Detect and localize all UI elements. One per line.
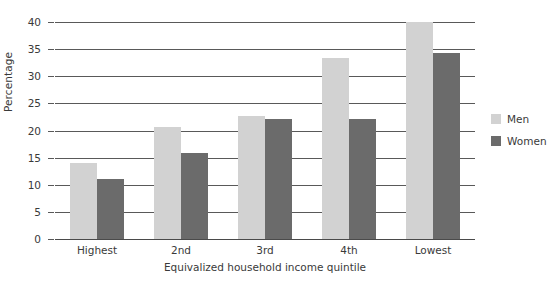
y-axis-title: Percentage bbox=[2, 22, 18, 112]
y-axis-tick bbox=[48, 212, 54, 213]
bar-men-highest bbox=[70, 163, 97, 239]
legend-item-men: Men bbox=[491, 110, 551, 128]
y-axis-tick-label: 15 bbox=[28, 152, 41, 164]
bar-men-2nd bbox=[154, 127, 181, 239]
y-axis-tick-label: 0 bbox=[34, 233, 41, 245]
y-axis-tick-label: 40 bbox=[28, 16, 41, 28]
x-axis-line bbox=[55, 239, 475, 240]
plot-area: 0510152025303540 bbox=[55, 22, 475, 239]
legend-item-women: Women bbox=[491, 132, 551, 150]
bar-group bbox=[322, 22, 376, 239]
y-axis-tick bbox=[48, 185, 54, 186]
bar-women-2nd bbox=[181, 153, 208, 239]
y-axis-tick bbox=[48, 131, 54, 132]
legend-swatch-icon bbox=[491, 136, 501, 146]
y-axis-tick bbox=[48, 22, 54, 23]
bar-women-4th bbox=[349, 119, 376, 239]
x-axis-tick-label: Highest bbox=[77, 244, 117, 256]
x-axis-title: Equivalized household income quintile bbox=[55, 261, 475, 273]
legend-label: Women bbox=[507, 135, 547, 147]
legend-label: Men bbox=[507, 113, 529, 125]
y-axis-tick bbox=[48, 239, 54, 240]
bar-group bbox=[154, 22, 208, 239]
y-axis-tick bbox=[48, 49, 54, 50]
y-axis-tick bbox=[48, 158, 54, 159]
y-axis-tick-label: 25 bbox=[28, 97, 41, 109]
x-axis-tick-label: 4th bbox=[340, 244, 357, 256]
bars-layer bbox=[55, 22, 475, 239]
y-axis-tick-label: 35 bbox=[28, 43, 41, 55]
bar-men-3rd bbox=[238, 116, 265, 239]
bar-women-highest bbox=[97, 179, 124, 239]
legend-swatch-icon bbox=[491, 114, 501, 124]
chart-legend: MenWomen bbox=[491, 110, 551, 154]
bar-group bbox=[406, 22, 460, 239]
x-axis-tick-label: 3rd bbox=[256, 244, 273, 256]
x-axis-tick-label: Lowest bbox=[415, 244, 452, 256]
y-axis-tick-label: 5 bbox=[34, 206, 41, 218]
bar-chart: Percentage 0510152025303540 Highest2nd3r… bbox=[0, 0, 552, 284]
bar-men-4th bbox=[322, 58, 349, 239]
y-axis-tick-label: 10 bbox=[28, 179, 41, 191]
bar-group bbox=[70, 22, 124, 239]
y-axis-tick-label: 30 bbox=[28, 70, 41, 82]
x-axis-tick-labels: Highest2nd3rd4thLowest bbox=[55, 244, 475, 260]
x-axis-tick-label: 2nd bbox=[171, 244, 191, 256]
bar-women-3rd bbox=[265, 119, 292, 239]
bar-group bbox=[238, 22, 292, 239]
y-axis-tick-label: 20 bbox=[28, 125, 41, 137]
y-axis-tick bbox=[48, 76, 54, 77]
y-axis-tick bbox=[48, 103, 54, 104]
bar-women-lowest bbox=[433, 53, 460, 239]
bar-men-lowest bbox=[406, 22, 433, 239]
